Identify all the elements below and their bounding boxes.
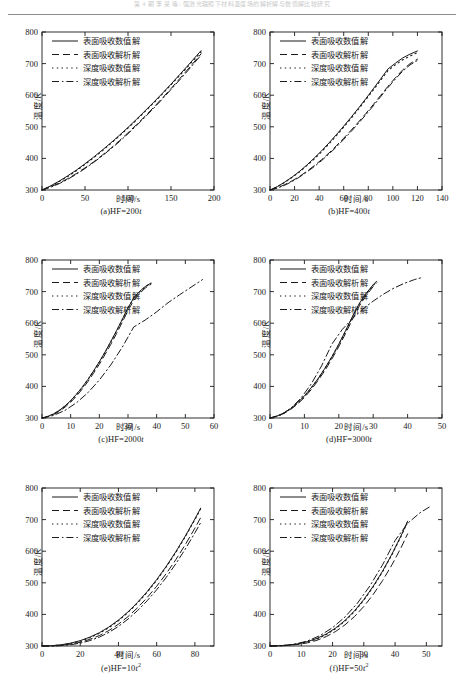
- y-tick-label: 400: [25, 609, 38, 619]
- series-s1: [42, 284, 151, 418]
- chart-panel-f: 01020304050300400500600700800表面吸收数值解表面吸收…: [240, 482, 450, 696]
- legend-label-0: 表面吸收数值解: [311, 36, 368, 46]
- y-tick-label: 400: [25, 153, 38, 163]
- chart-panel-d: 01020304050300400500600700800表面吸收数值解表面吸收…: [240, 254, 450, 472]
- plot-area-a: 050100150200300400500600700800表面吸收数值解表面吸…: [12, 26, 222, 216]
- legend-label-2: 深度吸收数值解: [311, 291, 368, 301]
- y-axis-label-d: 温度/K: [259, 305, 271, 363]
- x-axis-label-d: 时间/s: [268, 420, 444, 432]
- legend-label-3: 深度吸收解析解: [83, 77, 140, 87]
- chart-svg-c: 0102030405060300400500600700800表面吸收数值解表面…: [12, 254, 222, 444]
- series-s2: [42, 283, 151, 418]
- caption-b: (b)HF=400t: [254, 206, 444, 216]
- x-axis-label-c: 时间/s: [40, 420, 216, 432]
- y-axis-label-b: 温度/K: [259, 77, 271, 135]
- legend-label-1: 表面吸收解析解: [83, 278, 140, 288]
- legend-label-0: 表面吸收数值解: [311, 492, 368, 502]
- legend-label-2: 深度吸收数值解: [311, 519, 368, 529]
- series-s1: [270, 534, 408, 646]
- y-tick-label: 700: [253, 515, 266, 525]
- y-tick-label: 300: [253, 413, 266, 423]
- legend-label-2: 深度吸收数值解: [83, 63, 140, 73]
- x-axis-label-b: 时间/s: [268, 192, 444, 204]
- series-s1: [270, 283, 377, 418]
- y-tick-label: 700: [253, 59, 266, 69]
- y-tick-label: 700: [253, 287, 266, 297]
- y-tick-label: 300: [25, 641, 38, 651]
- legend-label-3: 深度吸收解析解: [311, 533, 368, 543]
- legend-label-0: 表面吸收数值解: [83, 264, 140, 274]
- caption-f: (f)HF=50t2: [254, 662, 444, 673]
- legend-label-1: 表面吸收解析解: [311, 278, 368, 288]
- x-axis-label-f: 时间/s: [268, 648, 444, 660]
- caption-c: (c)HF=2000t: [26, 434, 216, 444]
- chart-svg-a: 050100150200300400500600700800表面吸收数值解表面吸…: [12, 26, 222, 216]
- caption-e: (e)HF=10t2: [26, 662, 216, 673]
- chart-grid: 050100150200300400500600700800表面吸收数值解表面吸…: [0, 26, 464, 686]
- legend-label-2: 深度吸收数值解: [311, 63, 368, 73]
- y-axis-label-e: 温度/K: [31, 533, 43, 591]
- y-tick-label: 800: [253, 483, 266, 493]
- legend-label-1: 表面吸收解析解: [311, 506, 368, 516]
- legend-label-1: 表面吸收解析解: [83, 506, 140, 516]
- x-axis-label-a: 时间/s: [40, 192, 216, 204]
- chart-svg-d: 01020304050300400500600700800表面吸收数值解表面吸收…: [240, 254, 450, 444]
- legend-label-0: 表面吸收数值解: [311, 264, 368, 274]
- y-axis-label-c: 温度/K: [31, 305, 43, 363]
- chart-panel-a: 050100150200300400500600700800表面吸收数值解表面吸…: [12, 26, 222, 244]
- y-tick-label: 700: [25, 515, 38, 525]
- chart-svg-f: 01020304050300400500600700800表面吸收数值解表面吸收…: [240, 482, 450, 672]
- series-s2: [42, 509, 201, 646]
- series-s3: [42, 55, 201, 190]
- legend-label-3: 深度吸收解析解: [311, 77, 368, 87]
- chart-svg-b: 020406080100120140300400500600700800表面吸收…: [240, 26, 450, 216]
- y-tick-label: 800: [253, 27, 266, 37]
- series-s0: [270, 281, 377, 418]
- y-tick-label: 300: [25, 413, 38, 423]
- y-tick-label: 800: [253, 255, 266, 265]
- series-s0: [42, 283, 151, 418]
- y-tick-label: 700: [25, 59, 38, 69]
- legend-label-2: 深度吸收数值解: [83, 291, 140, 301]
- header-divider: [8, 14, 456, 15]
- plot-area-c: 0102030405060300400500600700800表面吸收数值解表面…: [12, 254, 222, 444]
- y-tick-label: 300: [253, 641, 266, 651]
- legend-label-3: 深度吸收解析解: [83, 305, 140, 315]
- y-tick-label: 300: [253, 185, 266, 195]
- chart-panel-b: 020406080100120140300400500600700800表面吸收…: [240, 26, 450, 244]
- caption-a: (a)HF=200t: [26, 206, 216, 216]
- legend-label-0: 表面吸收数值解: [83, 492, 140, 502]
- y-tick-label: 800: [25, 483, 38, 493]
- y-tick-label: 300: [25, 185, 38, 195]
- legend-label-1: 表面吸收解析解: [311, 50, 368, 60]
- header-running-title: 第 4 期 李 某 等: 强激光辐照下材料温度场的解析解与数值解比较研究: [0, 0, 464, 9]
- y-axis-label-f: 温度/K: [259, 533, 271, 591]
- y-tick-label: 800: [25, 27, 38, 37]
- chart-svg-e: 020406080300400500600700800表面吸收数值解表面吸收解析…: [12, 482, 222, 672]
- chart-panel-c: 0102030405060300400500600700800表面吸收数值解表面…: [12, 254, 222, 472]
- caption-d: (d)HF=3000t: [254, 434, 444, 444]
- plot-area-f: 01020304050300400500600700800表面吸收数值解表面吸收…: [240, 482, 450, 672]
- y-tick-label: 400: [253, 609, 266, 619]
- plot-area-d: 01020304050300400500600700800表面吸收数值解表面吸收…: [240, 254, 450, 444]
- plot-area-e: 020406080300400500600700800表面吸收数值解表面吸收解析…: [12, 482, 222, 672]
- legend-label-0: 表面吸收数值解: [83, 36, 140, 46]
- legend-label-2: 深度吸收数值解: [83, 519, 140, 529]
- legend-label-3: 深度吸收解析解: [83, 533, 140, 543]
- plot-area-b: 020406080100120140300400500600700800表面吸收…: [240, 26, 450, 216]
- series-s1: [42, 54, 201, 190]
- y-tick-label: 400: [253, 153, 266, 163]
- y-tick-label: 800: [25, 255, 38, 265]
- x-axis-label-e: 时间/s: [40, 648, 216, 660]
- y-tick-label: 700: [25, 287, 38, 297]
- legend-label-3: 深度吸收解析解: [311, 305, 368, 315]
- figure-page: 第 4 期 李 某 等: 强激光辐照下材料温度场的解析解与数值解比较研究 050…: [0, 0, 464, 696]
- y-tick-label: 400: [253, 381, 266, 391]
- legend-label-1: 表面吸收解析解: [83, 50, 140, 60]
- page-header: 第 4 期 李 某 等: 强激光辐照下材料温度场的解析解与数值解比较研究: [0, 0, 464, 22]
- y-axis-label-a: 温度/K: [31, 77, 43, 135]
- y-tick-label: 400: [25, 381, 38, 391]
- chart-panel-e: 020406080300400500600700800表面吸收数值解表面吸收解析…: [12, 482, 222, 696]
